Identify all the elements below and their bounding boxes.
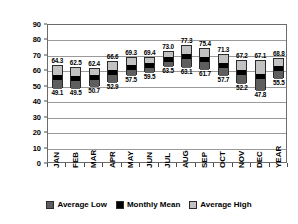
- bar-segment-average-high[interactable]: [256, 61, 265, 73]
- y-tick-label: 10: [33, 143, 41, 152]
- bar-value-label-high: 66.6: [107, 53, 119, 60]
- legend-item[interactable]: Average Low: [46, 200, 107, 209]
- bar-stack[interactable]: [236, 60, 247, 83]
- x-axis-label-dec: DEC: [255, 151, 264, 168]
- bar-value-label-low: 50.7: [88, 87, 100, 94]
- bar-stack[interactable]: [218, 54, 229, 75]
- bar-stack[interactable]: [181, 45, 192, 67]
- legend-label: Monthly Mean: [127, 200, 180, 209]
- bar-stack[interactable]: [255, 60, 266, 90]
- bar-segment-average-high[interactable]: [108, 62, 117, 70]
- bar-segment-average-low[interactable]: [219, 68, 228, 76]
- bar-segment-average-high[interactable]: [200, 49, 209, 57]
- bar-value-label-low: 63.1: [181, 68, 193, 75]
- bar-value-label-high: 69.3: [125, 49, 137, 56]
- legend-item[interactable]: Average High: [189, 200, 251, 209]
- x-axis-label-sep: SEP: [199, 152, 208, 168]
- bar-segment-average-low[interactable]: [256, 79, 265, 91]
- bar-value-label-low: 55.5: [273, 79, 285, 86]
- x-axis-label-jul: JUL: [163, 153, 172, 168]
- bar-value-label-low: 57.5: [125, 76, 137, 83]
- legend-label: Average High: [200, 200, 251, 209]
- y-axis-title-label: Temperature (°F): [11, 0, 20, 32]
- bar-group[interactable]: [107, 25, 118, 162]
- bar-value-label-high: 64.3: [51, 57, 63, 64]
- bar-segment-average-low[interactable]: [274, 71, 283, 79]
- x-tick-mark: [176, 163, 177, 167]
- bar-value-label-high: 67.2: [236, 52, 248, 59]
- bar-stack[interactable]: [107, 61, 118, 82]
- bar-group[interactable]: [181, 25, 192, 162]
- y-tick-label: 60: [33, 66, 41, 75]
- bar-segment-average-low[interactable]: [237, 75, 246, 84]
- bar-segment-average-high[interactable]: [71, 68, 80, 76]
- bar-group[interactable]: [273, 25, 284, 162]
- bar-stack[interactable]: [126, 57, 137, 75]
- y-tick-label: 40: [33, 97, 41, 106]
- bar-group[interactable]: [144, 25, 155, 162]
- x-axis-label-aug: AUG: [181, 150, 190, 168]
- bar-group[interactable]: [236, 25, 247, 162]
- x-axis-label-apr: APR: [107, 151, 116, 168]
- x-axis-label-nov: NOV: [236, 151, 245, 168]
- x-tick-mark: [250, 163, 251, 167]
- x-axis-label-jan: JAN: [52, 152, 61, 168]
- bar-value-label-high: 69.4: [144, 49, 156, 56]
- bar-stack[interactable]: [163, 51, 174, 66]
- bar-stack[interactable]: [89, 68, 100, 86]
- x-tick-mark: [65, 163, 66, 167]
- bar-segment-average-high[interactable]: [127, 58, 136, 65]
- plot-area: 64.349.162.549.562.450.766.652.969.357.5…: [47, 24, 287, 163]
- x-tick-mark: [195, 163, 196, 167]
- bar-segment-average-high[interactable]: [237, 61, 246, 70]
- bar-value-label-low: 49.1: [51, 89, 63, 96]
- bar-value-label-high: 77.3: [181, 37, 193, 44]
- bar-segment-average-low[interactable]: [71, 81, 80, 89]
- bar-segment-average-low[interactable]: [127, 70, 136, 77]
- bar-segment-average-high[interactable]: [53, 66, 62, 75]
- x-axis-labels: JANFEBMARAPRMAYJUNJULAUGSEPOCTNOVDECYEAR: [47, 168, 287, 196]
- bar-value-label-low: 52.2: [236, 84, 248, 91]
- bar-value-label-low: 61.7: [199, 70, 211, 77]
- bar-stack[interactable]: [144, 57, 155, 72]
- bar-segment-average-low[interactable]: [53, 80, 62, 89]
- bar-value-label-high: 73.0: [162, 43, 174, 50]
- y-tick-label: 90: [33, 20, 41, 29]
- y-tick-label: 80: [33, 35, 41, 44]
- x-tick-mark: [102, 163, 103, 167]
- x-tick-mark: [84, 163, 85, 167]
- legend-swatch-icon: [46, 201, 54, 209]
- bar-segment-average-low[interactable]: [90, 80, 99, 87]
- bar-value-label-high: 68.8: [273, 50, 285, 57]
- bar-stack[interactable]: [70, 67, 81, 87]
- bars-layer: 64.349.162.549.562.450.766.652.969.357.5…: [48, 25, 286, 162]
- y-tick-label: 0: [37, 159, 41, 168]
- bar-segment-average-low[interactable]: [108, 75, 117, 83]
- x-tick-mark: [213, 163, 214, 167]
- x-tick-mark: [158, 163, 159, 167]
- bar-stack[interactable]: [199, 48, 210, 69]
- x-axis-label-feb: FEB: [70, 152, 79, 168]
- legend-item[interactable]: Monthly Mean: [116, 200, 180, 209]
- bar-segment-average-low[interactable]: [182, 59, 191, 67]
- x-axis-label-may: MAY: [126, 151, 135, 168]
- legend-swatch-icon: [189, 201, 197, 209]
- bar-stack[interactable]: [52, 65, 63, 88]
- bar-group[interactable]: [126, 25, 137, 162]
- y-axis-ticks: 0102030405060708090: [22, 24, 44, 163]
- y-tick-label: 30: [33, 112, 41, 121]
- bar-stack[interactable]: [273, 58, 284, 79]
- bar-value-label-low: 63.5: [162, 67, 174, 74]
- bar-segment-average-low[interactable]: [200, 62, 209, 70]
- x-tick-mark: [139, 163, 140, 167]
- bar-segment-average-high[interactable]: [182, 46, 191, 54]
- x-tick-mark: [47, 163, 48, 167]
- x-tick-mark: [269, 163, 270, 167]
- bar-segment-average-high[interactable]: [274, 59, 283, 67]
- bar-value-label-high: 71.3: [218, 46, 230, 53]
- bar-value-label-high: 67.1: [254, 52, 266, 59]
- x-tick-mark: [232, 163, 233, 167]
- y-tick-label: 20: [33, 128, 41, 137]
- bar-value-label-low: 49.5: [70, 89, 82, 96]
- bar-segment-average-high[interactable]: [219, 55, 228, 63]
